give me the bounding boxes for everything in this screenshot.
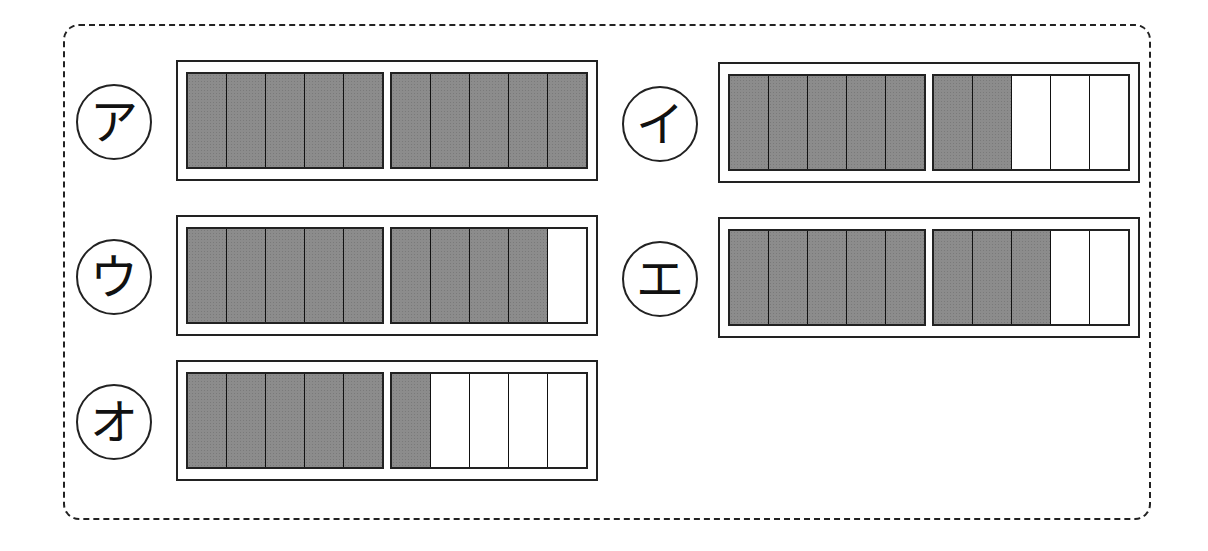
shaded-cell <box>392 374 431 467</box>
shaded-cell <box>227 374 266 467</box>
empty-cell <box>1012 76 1051 169</box>
shaded-cell <box>188 374 227 467</box>
shaded-cell <box>392 229 431 322</box>
option-label-circle: ア <box>76 84 152 160</box>
shaded-cell <box>973 76 1012 169</box>
cell-group <box>390 372 588 469</box>
shaded-cell <box>188 229 227 322</box>
cell-group <box>932 74 1130 171</box>
cell-group <box>728 74 926 171</box>
shaded-cell <box>431 74 470 167</box>
shaded-cell <box>470 74 509 167</box>
shaded-cell <box>808 76 847 169</box>
shaded-cell <box>1012 231 1051 324</box>
empty-cell <box>509 374 548 467</box>
shaded-cell <box>973 231 1012 324</box>
tape-diagram <box>718 62 1140 183</box>
shaded-cell <box>934 231 973 324</box>
shaded-cell <box>431 229 470 322</box>
shaded-cell <box>548 74 586 167</box>
empty-cell <box>1090 76 1128 169</box>
cell-group <box>186 227 384 324</box>
shaded-cell <box>344 229 382 322</box>
shaded-cell <box>730 231 769 324</box>
empty-cell <box>1051 231 1090 324</box>
shaded-cell <box>227 229 266 322</box>
shaded-cell <box>769 231 808 324</box>
empty-cell <box>470 374 509 467</box>
cell-group <box>932 229 1130 326</box>
shaded-cell <box>266 374 305 467</box>
cell-group <box>390 227 588 324</box>
tape-diagram <box>718 217 1140 338</box>
shaded-cell <box>266 229 305 322</box>
shaded-cell <box>509 229 548 322</box>
tape-diagram <box>176 60 598 181</box>
cell-group <box>728 229 926 326</box>
empty-cell <box>431 374 470 467</box>
shaded-cell <box>305 374 344 467</box>
option-label-circle: イ <box>622 86 698 162</box>
shaded-cell <box>886 76 924 169</box>
tape-diagram <box>176 215 598 336</box>
shaded-cell <box>847 231 886 324</box>
shaded-cell <box>509 74 548 167</box>
shaded-cell <box>266 74 305 167</box>
tape-diagram <box>176 360 598 481</box>
option-label-circle: ウ <box>76 239 152 315</box>
option-label-circle: エ <box>622 241 698 317</box>
cell-group <box>186 72 384 169</box>
shaded-cell <box>470 229 509 322</box>
shaded-cell <box>392 74 431 167</box>
shaded-cell <box>847 76 886 169</box>
shaded-cell <box>344 74 382 167</box>
shaded-cell <box>886 231 924 324</box>
shaded-cell <box>188 74 227 167</box>
shaded-cell <box>808 231 847 324</box>
shaded-cell <box>227 74 266 167</box>
empty-cell <box>1090 231 1128 324</box>
shaded-cell <box>344 374 382 467</box>
shaded-cell <box>934 76 973 169</box>
empty-cell <box>548 229 586 322</box>
empty-cell <box>548 374 586 467</box>
shaded-cell <box>305 229 344 322</box>
shaded-cell <box>305 74 344 167</box>
shaded-cell <box>730 76 769 169</box>
cell-group <box>390 72 588 169</box>
shaded-cell <box>769 76 808 169</box>
option-label-circle: オ <box>76 384 152 460</box>
cell-group <box>186 372 384 469</box>
empty-cell <box>1051 76 1090 169</box>
